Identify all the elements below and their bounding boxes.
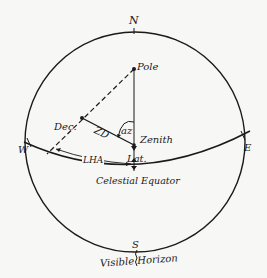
zenith-point	[132, 143, 136, 147]
celestial-sphere-diagram: N Pole Dec. ZD az Zenith W E Lat. LHA Ce…	[0, 0, 267, 278]
diagram-graphics	[0, 0, 267, 278]
pole-label: Pole	[137, 62, 158, 72]
declination-dashed-line	[47, 69, 134, 154]
visible-horizon-circle	[25, 32, 245, 252]
declination-point	[80, 116, 84, 120]
celestial-equator-label: Celestial Equator	[96, 176, 180, 186]
latitude-label: Lat.	[127, 154, 147, 164]
lha-label: LHA	[82, 156, 104, 165]
east-label: E	[244, 143, 251, 153]
zenith-label: Zenith	[140, 135, 173, 145]
south-label: S	[132, 240, 139, 250]
pole-point	[132, 67, 136, 71]
west-label: W	[18, 145, 28, 155]
lat-arrow-down	[131, 166, 137, 170]
north-label: N	[129, 15, 139, 26]
azimuth-label: az	[121, 126, 132, 136]
declination-label: Dec.	[54, 122, 77, 132]
